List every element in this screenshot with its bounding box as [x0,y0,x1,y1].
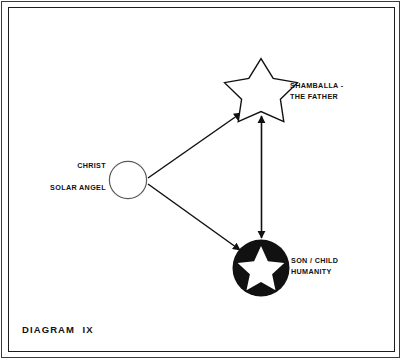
diagram-canvas [0,0,403,361]
label-shamballa: SHAMBALLA -THE FATHER [290,81,344,102]
label-son-line1: SON / CHILD [291,256,338,265]
diagram-caption: DIAGRAM IX [22,324,94,335]
label-solar-angel: SOLAR ANGEL [38,183,106,194]
connector-christ-to-son [148,184,240,250]
diagram-page: SHAMBALLA -THE FATHER SON / CHILDHUMANIT… [0,0,403,361]
shamballa-star-icon [225,59,298,122]
label-son-line2: HUMANITY [291,267,332,276]
christ-circle-icon [109,161,146,198]
connector-christ-to-shamballa [148,113,241,178]
label-shamballa-line1: SHAMBALLA - [290,81,344,90]
label-christ: CHRIST [58,161,106,172]
label-son-child: SON / CHILDHUMANITY [291,256,338,277]
son-child-node [233,240,290,297]
label-shamballa-line2: THE FATHER [290,92,338,101]
